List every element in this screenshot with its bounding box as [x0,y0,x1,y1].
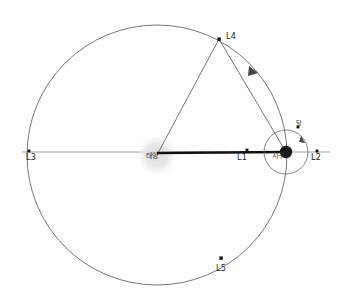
lagrange-point-l1 [246,149,249,152]
lagrange-diagram-canvas: L3 L1 L2 L4 L5 태양 지구 달 [0,0,342,297]
label-l5: L5 [216,265,226,273]
label-l3: L3 [26,154,36,162]
l4-to-earth-line [219,39,286,152]
label-moon: 달 [296,120,302,126]
label-l4: L4 [226,33,236,41]
sun-to-earth-line [157,152,286,153]
label-sun: 태양 [146,153,158,160]
moon-body [297,126,300,129]
label-l1: L1 [237,154,247,162]
lagrange-point-l4 [217,37,220,40]
lagrange-point-l3 [28,150,31,153]
lagrange-point-l2 [316,150,319,153]
label-earth: 지구 [272,153,284,160]
diagram-svg [0,0,342,297]
label-l2: L2 [311,154,321,162]
sun-to-l4-line [157,39,219,155]
lagrange-point-l5 [219,256,222,259]
